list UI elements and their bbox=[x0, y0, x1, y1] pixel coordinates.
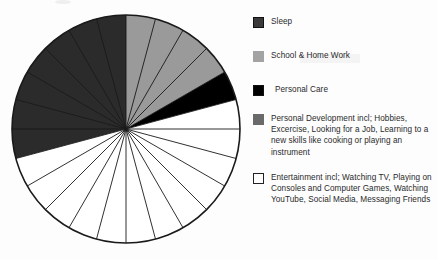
legend-label-personal-care: Personal Care bbox=[271, 84, 328, 95]
legend-swatch-school-home-work bbox=[253, 51, 264, 62]
legend-swatch-entertainment bbox=[253, 173, 264, 184]
chart-page: Sleep School & Home Work Personal Care P… bbox=[0, 0, 438, 260]
legend-swatch-personal-care bbox=[253, 85, 264, 96]
legend-item-entertainment[interactable]: Entertainment incl; Watching TV, Playing… bbox=[253, 172, 435, 206]
legend-label-personal-development: Personal Development incl; Hobbies, Exce… bbox=[271, 113, 435, 158]
legend-item-sleep[interactable]: Sleep bbox=[253, 16, 435, 28]
legend-item-personal-development[interactable]: Personal Development incl; Hobbies, Exce… bbox=[253, 113, 435, 158]
pie-hour-dividers bbox=[12, 15, 240, 243]
pie-chart-svg bbox=[9, 11, 243, 251]
legend-label-school-home-work: School & Home Work bbox=[271, 50, 350, 61]
legend-swatch-personal-development bbox=[253, 114, 264, 125]
legend-label-entertainment: Entertainment incl; Watching TV, Playing… bbox=[271, 172, 435, 206]
legend-swatch-sleep bbox=[253, 17, 264, 28]
legend-item-school-home-work[interactable]: School & Home Work bbox=[253, 50, 435, 62]
scan-artifact-top bbox=[55, 0, 71, 4]
pie-chart bbox=[9, 11, 243, 251]
chart-legend: Sleep School & Home Work Personal Care P… bbox=[253, 16, 435, 252]
legend-item-personal-care[interactable]: Personal Care bbox=[253, 84, 435, 96]
legend-label-sleep: Sleep bbox=[271, 16, 292, 27]
